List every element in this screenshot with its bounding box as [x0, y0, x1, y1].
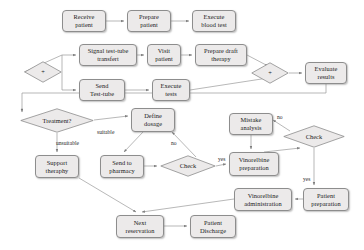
node-vinorelbine_prep[interactable]: Vinorelbinepreparation [229, 152, 279, 176]
node-label: Discharge [200, 227, 226, 235]
node-label: Prepare [139, 13, 159, 21]
node-label: analysis [241, 124, 262, 132]
node-label: preparation [311, 200, 341, 208]
decision-label: Treatment? [43, 117, 72, 124]
node-next_reservation[interactable]: Nextreservation [116, 215, 164, 238]
node-signal_test_tube[interactable]: Signal test-tubetransfert [79, 44, 137, 66]
node-label: Patient [204, 219, 222, 227]
node-label: Evaluate [315, 65, 338, 73]
node-label: Signal test-tube [88, 47, 129, 55]
node-label: Support [47, 159, 68, 167]
node-prepare_draft_therapy[interactable]: Prepare drafttherapy [195, 44, 247, 66]
node-execute_blood_test[interactable]: Executeblood test [192, 10, 236, 32]
decision-label: Check [180, 162, 196, 169]
node-receive_patient[interactable]: Receivepatient [62, 10, 106, 32]
edge-label-yes_left: yes [218, 156, 225, 162]
node-label: Execute [204, 13, 225, 21]
merge-node-merge_right[interactable]: + [251, 62, 289, 84]
node-label: patient [140, 21, 158, 29]
merge-node-merge_left[interactable]: + [24, 61, 62, 83]
node-label: Receive [74, 13, 95, 21]
decision-node-treatment_decision[interactable]: Treatment? [20, 108, 94, 133]
node-label: results [317, 73, 334, 81]
node-send_test_tube[interactable]: SendTest-tube [79, 79, 125, 101]
edge-label-suitable: suitable [97, 129, 114, 135]
node-label: Execute [161, 82, 182, 90]
merge-label: + [41, 68, 45, 75]
node-define_dosage[interactable]: Definedosage [131, 108, 175, 132]
node-patient_preparation[interactable]: Patientpreparation [303, 188, 349, 211]
node-label: Next [134, 219, 147, 227]
node-prepare_patient[interactable]: Preparepatient [127, 10, 171, 32]
node-evaluate_results[interactable]: Evaluateresults [305, 62, 347, 84]
node-label: Define [144, 112, 162, 120]
node-label: tests [165, 90, 177, 98]
node-label: Vinorelbine [248, 192, 279, 200]
node-label: patient [155, 55, 173, 63]
node-visit_patient[interactable]: Visitpatient [147, 44, 181, 66]
node-label: pharmacy [109, 167, 135, 175]
decision-node-check_right[interactable]: Check [283, 125, 345, 148]
node-mistake_analysis[interactable]: Mistakeanalysis [229, 113, 273, 135]
node-label: Prepare draft [204, 47, 238, 55]
edge-label-unsuitable: unsuitable [56, 140, 79, 146]
decision-label: Check [306, 133, 322, 140]
node-label: therapy [211, 55, 231, 63]
decision-node-check_left[interactable]: Check [160, 155, 216, 177]
edge-label-no_right: no [277, 114, 283, 120]
node-support_therapy[interactable]: Supporttheraphy [35, 155, 79, 178]
node-execute_tests[interactable]: Executetests [152, 79, 190, 101]
node-send_to_pharmacy[interactable]: Send topharmacy [100, 155, 144, 178]
node-label: preparation [239, 164, 269, 172]
node-label: Send [96, 82, 109, 90]
edge-label-yes_right: yes [303, 176, 310, 182]
edge-label-no_left: no [171, 140, 177, 146]
node-label: Visit [158, 47, 170, 55]
node-label: Patient [317, 192, 335, 200]
node-label: Test-tube [90, 90, 114, 98]
node-label: administration [244, 200, 282, 208]
node-label: Send to [112, 159, 132, 167]
node-label: Vinorelbine [239, 156, 270, 164]
node-label: transfert [97, 55, 119, 63]
node-label: patient [75, 21, 93, 29]
node-patient_discharge[interactable]: PatientDischarge [190, 215, 236, 238]
node-label: blood test [201, 21, 227, 29]
node-label: Mistake [241, 116, 262, 124]
node-label: theraphy [46, 167, 69, 175]
node-label: reservation [126, 227, 155, 235]
node-label: dosage [144, 120, 162, 128]
node-vinorelbine_admin[interactable]: Vinorelbineadministration [234, 188, 292, 211]
merge-label: + [268, 69, 272, 76]
